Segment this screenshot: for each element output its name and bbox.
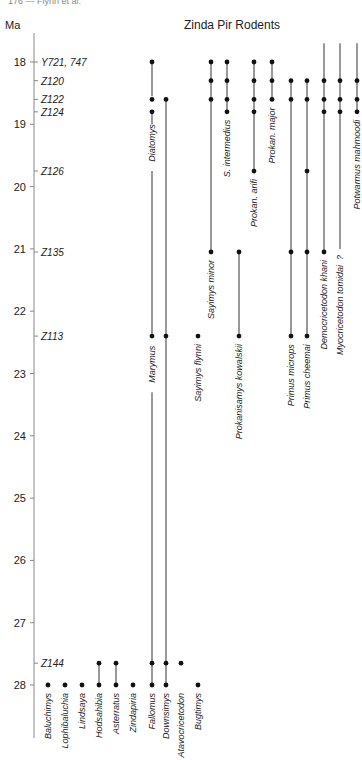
occurrence-dot (196, 683, 201, 688)
taxon-label: S. intermedius (222, 119, 232, 177)
occurrence-dot (150, 334, 155, 339)
taxon-myocricetodon-tomidai: Myocricetodon tomidai? (335, 43, 345, 355)
taxon-label: Democricetodon khani (319, 259, 329, 350)
site-label: Z144 (40, 658, 64, 669)
y-tick-label: 26 (14, 554, 26, 566)
occurrence-dot (305, 169, 310, 174)
taxon-label: Marymus (147, 345, 157, 383)
occurrence-dot (305, 78, 310, 83)
site-label: Z124 (40, 107, 64, 118)
occurrence-dot (289, 78, 294, 83)
taxon-label: Asterratus (111, 693, 121, 736)
occurrence-dot (338, 78, 343, 83)
site-label: Z126 (40, 166, 64, 177)
occurrence-dot (252, 97, 257, 102)
y-tick-label: 27 (14, 617, 26, 629)
taxon-label: Primus cheemai (302, 343, 312, 409)
taxon-asterratus: Asterratus (111, 661, 121, 735)
occurrence-dot (355, 97, 360, 102)
occurrence-dot (164, 97, 169, 102)
taxon-fallomus: Fallomus (147, 392, 157, 729)
taxon-label: Bugtimys (193, 693, 203, 731)
taxon-label: Lophibaluchia (60, 693, 70, 749)
taxon-label: Diatomys (147, 124, 157, 162)
occurrence-dot (209, 60, 214, 65)
taxon-lindsaya: Lindsaya (77, 683, 87, 729)
occurrence-dot (97, 683, 102, 688)
taxon-label: Primus microps (286, 344, 296, 407)
taxon-label: Fallomus (147, 693, 157, 730)
occurrence-dot (114, 683, 119, 688)
taxon-label: Hodsahibia (94, 693, 104, 738)
occurrence-dot (322, 78, 327, 83)
range-chart: 176 — Flynn et al. Ma Zinda Pir Rodents … (0, 0, 362, 760)
occurrence-dot (305, 334, 310, 339)
occurrence-dot (196, 334, 201, 339)
occurrence-dot (225, 109, 230, 114)
occurrence-dot (305, 250, 310, 255)
occurrence-dot (150, 683, 155, 688)
y-tick-label: 25 (14, 492, 26, 504)
taxon-label: Prokan. major (267, 106, 277, 163)
site-label: Z135 (40, 247, 64, 258)
taxon-lophibaluchia: Lophibaluchia (60, 683, 70, 749)
occurrence-dot (114, 661, 119, 666)
taxon-sayimys-flynni: Sayimys flynni (193, 334, 203, 402)
taxon-bugtimys: Bugtimys (193, 683, 203, 730)
taxon-potwarmus-mahmoodi: Potwarmus mahmoodi (352, 43, 362, 209)
taxon-label: Prokan. arifi (249, 178, 259, 227)
taxon-sayimys-minor: Sayimys minor (206, 60, 216, 319)
taxon-zindapiria: Zindapiria (128, 683, 138, 734)
occurrence-dot (225, 97, 230, 102)
taxon-downsimys: Downsimys (161, 336, 171, 739)
y-tick-label: 19 (14, 118, 26, 130)
occurrence-dot (355, 78, 360, 83)
site-label: Z113 (40, 331, 63, 342)
occurrence-dot (164, 334, 169, 339)
taxon-label: Lindsaya (77, 693, 87, 729)
occurrence-dot (322, 250, 327, 255)
taxon-label: Baluchimys (43, 693, 53, 740)
y-tick-label: 22 (14, 305, 26, 317)
taxon-diatomys: Diatomys (147, 60, 157, 337)
occurrence-dot (150, 97, 155, 102)
taxon-s-intermedius: S. intermedius (222, 60, 232, 178)
occurrence-dot (80, 683, 85, 688)
occurrence-dot (237, 250, 242, 255)
taxon-ranges: BaluchimysLophibaluchiaLindsayaHodsahibi… (43, 43, 362, 758)
occurrence-dot (252, 60, 257, 65)
occurrence-dot (150, 661, 155, 666)
taxon-marymus-stem (164, 97, 169, 339)
occurrence-dot (338, 109, 343, 114)
occurrence-dot (209, 78, 214, 83)
uncertainty-mark: ? (335, 255, 345, 260)
occurrence-dot (237, 334, 242, 339)
chart-title: Zinda Pir Rodents (184, 18, 280, 32)
taxon-label: Sayimys flynni (193, 343, 203, 402)
occurrence-dot (97, 661, 102, 666)
taxon-prokan-major: Prokan. major (267, 60, 277, 164)
taxon-label: Zindapiria (128, 693, 138, 734)
occurrence-dot (252, 109, 257, 114)
taxon-prokan-arifi: Prokan. arifi (249, 60, 259, 227)
taxon-marymus: Marymus (147, 334, 157, 383)
taxon-label: Atavocricetodon (176, 693, 186, 759)
occurrence-dot (150, 60, 155, 65)
y-axis-ticks: 1819202122232425262728 (14, 56, 34, 691)
occurrence-dot (270, 60, 275, 65)
occurrence-dot (209, 250, 214, 255)
page-header: 176 — Flynn et al. (8, 0, 81, 6)
y-tick-label: 18 (14, 56, 26, 68)
occurrence-dot (164, 683, 169, 688)
taxon-label: Potwarmus mahmoodi (352, 119, 362, 210)
occurrence-dot (150, 109, 155, 114)
occurrence-dot (322, 97, 327, 102)
site-markers: Y721, 747Z120Z122Z124Z126Z135Z113Z144 (34, 57, 87, 669)
occurrence-dot (131, 683, 136, 688)
occurrence-dot (225, 78, 230, 83)
occurrence-dot (252, 169, 257, 174)
occurrence-dot (270, 97, 275, 102)
taxon-label: Myocricetodon tomidai (335, 264, 345, 355)
site-label: Z120 (40, 76, 64, 87)
taxon-primus-cheemai: Primus cheemai (302, 78, 312, 408)
